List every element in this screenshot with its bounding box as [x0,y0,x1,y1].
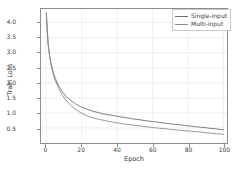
legend-item-single-input: Single-input [175,12,227,20]
y-tick-mark [37,98,40,99]
y-tick-label: 4.0 [6,19,16,25]
y-tick-label: 0.5 [6,126,16,132]
x-tick-mark [153,144,154,147]
chart-figure: 0.51.01.52.02.53.03.54.0 020406080100 Ep… [0,0,248,173]
y-tick-mark [37,37,40,38]
y-tick-mark [37,129,40,130]
legend-label-multi-input: Multi-input [191,21,223,27]
y-tick-mark [37,83,40,84]
x-tick-mark [224,144,225,147]
y-tick-mark [37,68,40,69]
y-tick-mark [37,113,40,114]
x-tick-label: 60 [149,147,157,153]
x-tick-mark [81,144,82,147]
x-tick-label: 80 [185,147,193,153]
legend-swatch-multi-input [175,24,188,25]
legend-item-multi-input: Multi-input [175,20,227,28]
legend-label-single-input: Single-input [191,13,227,19]
x-axis-label: Epoch [40,156,228,163]
y-tick-label: 3.5 [6,34,16,40]
y-tick-mark [37,22,40,23]
x-tick-mark [117,144,118,147]
x-tick-label: 40 [113,147,121,153]
x-tick-label: 100 [219,147,230,153]
legend-swatch-single-input [175,16,188,17]
y-tick-label: 1.0 [6,110,16,116]
x-tick-label: 0 [43,147,47,153]
chart-legend: Single-input Multi-input [172,9,231,31]
y-tick-mark [37,52,40,53]
y-axis-label: Train Loss [7,52,14,108]
x-tick-mark [45,144,46,147]
x-tick-mark [189,144,190,147]
x-tick-label: 20 [77,147,85,153]
